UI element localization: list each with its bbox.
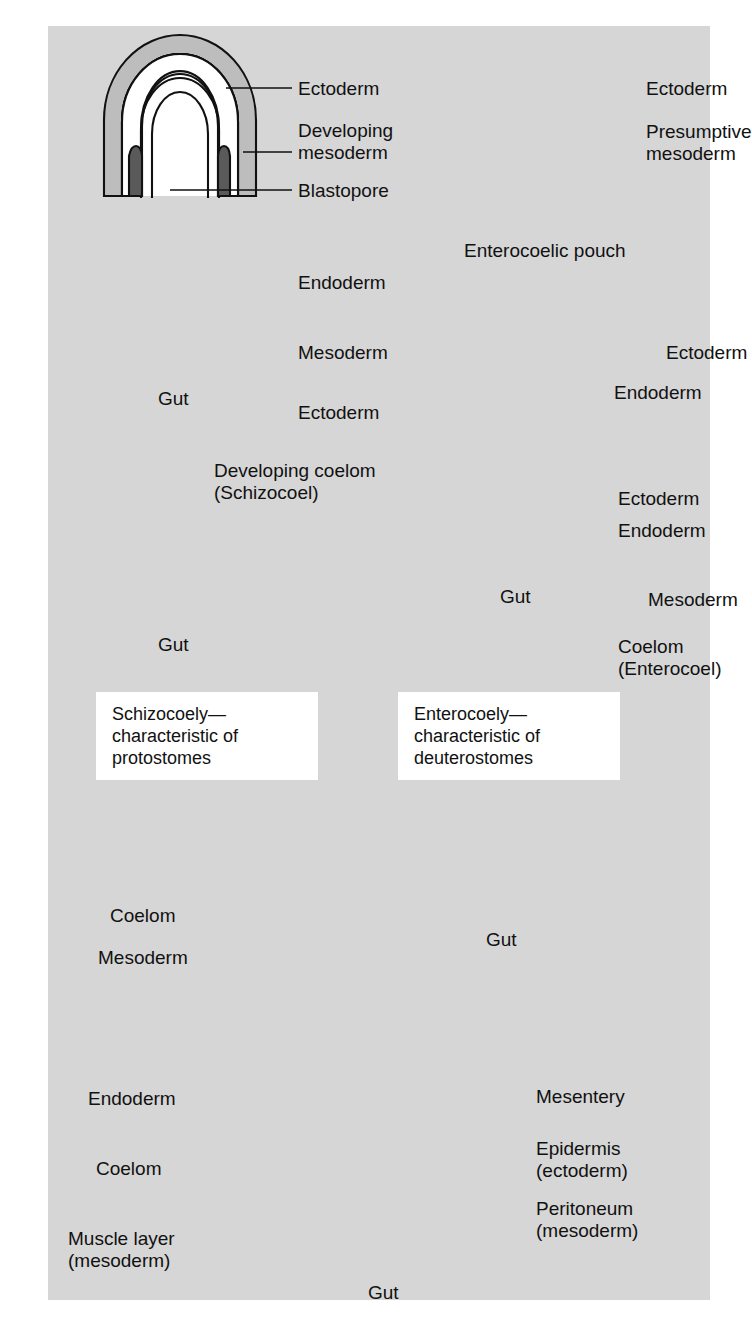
label-bot-peritoneum: Peritoneum xyxy=(536,1198,633,1219)
label-bot-endoderm: Endoderm xyxy=(88,1088,176,1109)
label-bot-gut: Gut xyxy=(368,1282,399,1303)
label-bot-muscle-mesoderm: (mesoderm) xyxy=(68,1250,170,1271)
label-r3r-enterocoel: (Enterocoel) xyxy=(618,658,722,679)
label-bot-mesentery: Mesentery xyxy=(536,1086,625,1107)
label-r1l-mesoderm: mesoderm xyxy=(298,142,388,163)
label-r1r-mesoderm: mesoderm xyxy=(646,143,736,164)
label-r2l-gut: Gut xyxy=(158,388,189,410)
enterocoely-box-line3: deuterostomes xyxy=(414,748,533,770)
label-r2l-ectoderm: Ectoderm xyxy=(298,402,379,423)
label-mid-gut: Gut xyxy=(486,929,517,950)
enterocoely-box-line2: characteristic of xyxy=(414,726,540,748)
schizocoely-box-line1: Schizocoely— xyxy=(112,704,226,726)
label-r3l-gut: Gut xyxy=(158,634,189,656)
label-bot-coelom: Coelom xyxy=(96,1158,161,1179)
label-r2r-endoderm: Endoderm xyxy=(614,382,702,403)
label-r1l-blastopore: Blastopore xyxy=(298,180,389,201)
label-bot-epidermis: Epidermis xyxy=(536,1138,620,1159)
enterocoely-box-line1: Enterocoely— xyxy=(414,704,527,726)
label-bot-epidermis-ectoderm: (ectoderm) xyxy=(536,1160,628,1181)
label-r3r-mesoderm: Mesoderm xyxy=(648,589,738,610)
label-r3l-developing-coelom: Developing coelom xyxy=(214,460,376,481)
stage-protostome-gastrula xyxy=(104,35,292,198)
label-r1r-ectoderm: Ectoderm xyxy=(646,78,727,99)
label-r1r-presumptive: Presumptive xyxy=(646,121,752,142)
label-bot-muscle-layer: Muscle layer xyxy=(68,1228,175,1249)
label-r1l-developing: Developing xyxy=(298,120,393,141)
label-r2r-enterocoelic-pouch: Enterocoelic pouch xyxy=(464,240,626,261)
schizocoely-box-line2: characteristic of xyxy=(112,726,238,748)
label-mid-mesoderm: Mesoderm xyxy=(98,947,188,968)
label-r2l-endoderm: Endoderm xyxy=(298,272,386,293)
label-r3r-ectoderm: Ectoderm xyxy=(618,488,699,509)
label-mid-coelom: Coelom xyxy=(110,905,175,926)
label-r3r-endoderm: Endoderm xyxy=(618,520,706,541)
label-r2r-ectoderm: Ectoderm xyxy=(666,342,747,363)
label-r3l-schizocoel: (Schizocoel) xyxy=(214,482,319,503)
label-r3r-gut: Gut xyxy=(500,586,531,608)
label-r3r-coelom: Coelom xyxy=(618,636,683,657)
schizocoely-box-line3: protostomes xyxy=(112,748,211,770)
label-bot-peritoneum-mesoderm: (mesoderm) xyxy=(536,1220,638,1241)
label-r1l-ectoderm: Ectoderm xyxy=(298,78,379,99)
label-r2l-mesoderm: Mesoderm xyxy=(298,342,388,363)
